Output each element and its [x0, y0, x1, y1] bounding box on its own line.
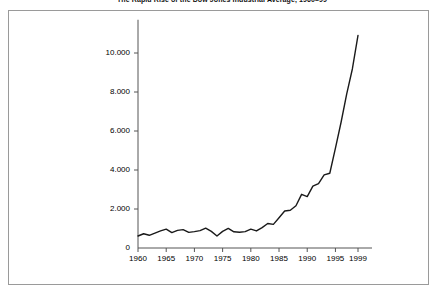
chart-frame	[8, 10, 429, 285]
y-tick-label: 2.000	[78, 205, 130, 213]
y-tick-label: 8.000	[78, 88, 130, 96]
y-tick-label: 10.000	[78, 49, 130, 57]
figure-container: The Rapid Rise of the Dow Jones Industri…	[0, 0, 444, 297]
x-tick-label: 1999	[338, 255, 378, 263]
chart-title: The Rapid Rise of the Dow Jones Industri…	[0, 0, 444, 4]
y-tick-label: 6.000	[78, 127, 130, 135]
y-tick-label: 0	[78, 244, 130, 252]
y-tick-label: 4.000	[78, 166, 130, 174]
